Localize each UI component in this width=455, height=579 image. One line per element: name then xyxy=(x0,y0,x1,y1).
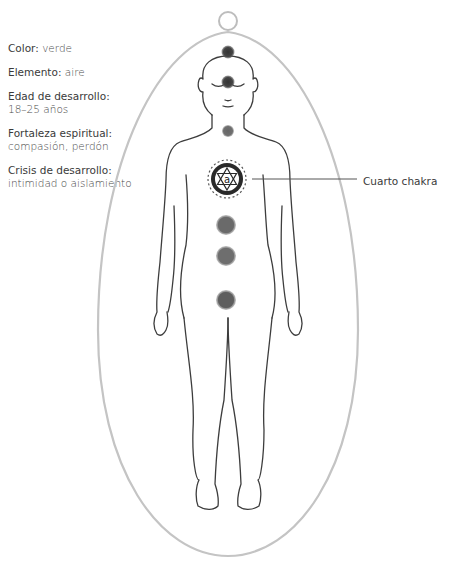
throat-chakra-icon xyxy=(222,125,234,137)
crown-chakra-icon xyxy=(222,46,235,59)
body-chakra-diagram: a xyxy=(0,0,455,579)
body-outline xyxy=(154,56,302,509)
aura-outline xyxy=(98,12,358,556)
svg-text:a: a xyxy=(224,174,230,185)
solar-plexus-chakra-icon xyxy=(216,215,236,235)
root-chakra-icon xyxy=(216,290,236,310)
callout-label-heart-chakra: Cuarto chakra xyxy=(363,175,437,187)
heart-chakra-mandala-icon: a xyxy=(208,160,246,198)
crown-ring-icon xyxy=(219,12,237,30)
sacral-chakra-icon xyxy=(216,246,236,266)
third-eye-chakra-icon xyxy=(222,76,235,89)
